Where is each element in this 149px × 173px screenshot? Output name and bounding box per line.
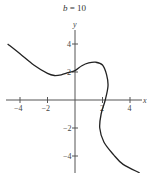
x-tick-label: 4 (128, 104, 132, 113)
plot-area: xy−4−22442−2−4 (0, 0, 149, 173)
chart-title: b = 10 (0, 3, 149, 13)
x-tick-label: −4 (14, 104, 23, 113)
axes: xy−4−22442−2−4 (6, 20, 147, 173)
x-axis-label: x (142, 96, 147, 105)
y-axis-label: y (72, 20, 77, 29)
x-tick-label: −2 (42, 104, 51, 113)
title-variable: b (63, 3, 68, 13)
y-tick-label: 4 (67, 40, 71, 49)
y-tick-label: −4 (63, 152, 72, 161)
y-tick-label: −2 (63, 124, 72, 133)
title-value: = 10 (70, 3, 86, 13)
data-curve (8, 44, 140, 173)
chart: b = 10 xy−4−22442−2−4 (0, 0, 149, 173)
